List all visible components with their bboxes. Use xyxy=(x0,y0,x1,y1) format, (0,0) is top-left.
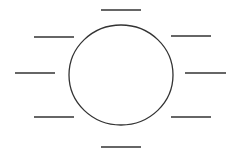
circle-map-diagram xyxy=(0,0,231,158)
center-circle xyxy=(69,25,173,125)
blank-label-lines xyxy=(15,10,226,147)
